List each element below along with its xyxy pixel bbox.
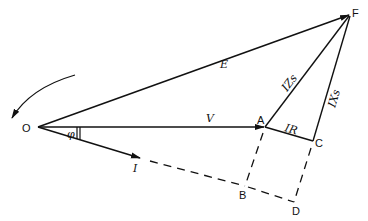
phasor-i — [38, 127, 140, 158]
label-phi: φ — [67, 128, 75, 141]
label-e: E — [219, 58, 228, 71]
phasor-diagram: E V I φ O A B C D F IR IZs IXs — [0, 0, 368, 221]
phasor-ixs — [313, 16, 350, 141]
label-izs: IZs — [278, 72, 300, 95]
phasor-e — [38, 15, 349, 127]
label-c: C — [315, 137, 323, 149]
rotation-arrow — [12, 75, 75, 118]
label-v: V — [206, 112, 215, 125]
label-f: F — [352, 7, 359, 19]
label-o: O — [22, 122, 31, 134]
construction-lines — [150, 133, 311, 202]
label-i: I — [132, 162, 138, 175]
label-d: D — [292, 205, 300, 217]
label-ir: IR — [282, 121, 299, 137]
phasor-izs — [265, 16, 349, 127]
label-a: A — [257, 114, 265, 126]
label-b: B — [239, 189, 246, 201]
